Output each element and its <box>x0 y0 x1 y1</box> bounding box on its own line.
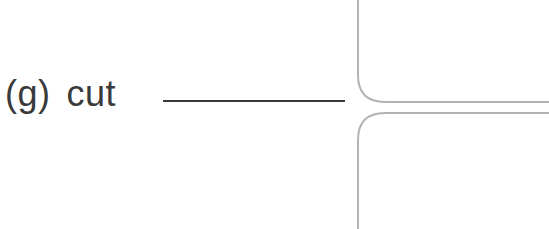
lower-curve <box>358 113 549 229</box>
junction-diagram <box>0 0 549 229</box>
upper-curve <box>358 0 549 102</box>
